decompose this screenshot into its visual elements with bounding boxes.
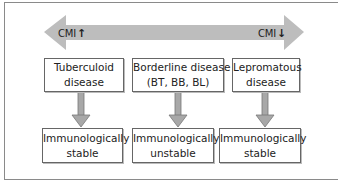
cmi-text: CMI (258, 28, 276, 39)
up-arrow-icon: ↑ (77, 27, 86, 40)
lepromatous-outcome-box: Immunologically stable (219, 128, 301, 163)
box-text: stable (43, 146, 122, 161)
box-text: Immunologically (43, 131, 122, 146)
borderline-outcome-box: Immunologically unstable (132, 128, 214, 163)
down-arrow-icon: ↓ (277, 27, 286, 40)
box-text: disease (45, 75, 123, 90)
lepromatous-disease-box: Lepromatous disease (232, 58, 300, 92)
box-text: (BT, BB, BL) (133, 75, 223, 90)
cmi-increase-label: CMI↑ (58, 27, 86, 40)
box-text: Immunologically (133, 131, 213, 146)
box-text: Borderline disease (133, 60, 223, 75)
box-text: disease (233, 75, 299, 90)
borderline-disease-box: Borderline disease (BT, BB, BL) (132, 58, 224, 92)
cmi-decrease-label: CMI↓ (258, 27, 286, 40)
box-text: Tuberculoid (45, 60, 123, 75)
cmi-text: CMI (58, 28, 76, 39)
down-arrow-borderline (169, 92, 187, 127)
tuberculoid-outcome-box: Immunologically stable (42, 128, 123, 163)
down-arrow-lepromatous (256, 92, 274, 127)
box-text: unstable (133, 146, 213, 161)
down-arrow-tuberculoid (72, 92, 90, 127)
box-text: Immunologically (220, 131, 300, 146)
tuberculoid-disease-box: Tuberculoid disease (44, 58, 124, 92)
box-text: stable (220, 146, 300, 161)
arrow-layer (0, 0, 338, 193)
box-text: Lepromatous (233, 60, 299, 75)
